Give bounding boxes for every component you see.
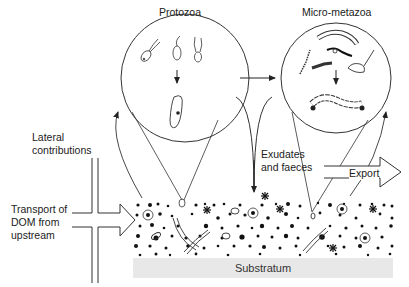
rotifer-small-icon — [348, 50, 374, 73]
micro-metazoa-circle — [281, 23, 391, 133]
zoom-line-protozoa-right — [184, 120, 218, 200]
transport-label-line2: DOM from — [11, 216, 59, 229]
protozoa-circle — [121, 14, 249, 142]
lateral-contributions-label-line1: Lateral — [32, 131, 64, 144]
lateral-channel — [92, 158, 98, 283]
export-label: Export — [349, 167, 379, 180]
star-particles — [203, 192, 377, 252]
zoom-line-protozoa-left — [132, 112, 182, 200]
exudates-label-line2: and faeces — [261, 161, 312, 174]
substratum-bar: Substratum — [133, 258, 393, 278]
micro-metazoa-label: Micro-metazoa — [302, 6, 371, 19]
substratum-label: Substratum — [133, 258, 393, 278]
protozoa-label: Protozoa — [159, 6, 201, 19]
flagellate-icon — [139, 36, 202, 63]
biofilm-to-protozoa-arrow — [116, 112, 142, 198]
exudates-curve-left — [236, 97, 254, 190]
algal-cells — [143, 204, 370, 243]
exudates-curve-right — [254, 97, 272, 190]
rotifer-icon — [318, 32, 357, 44]
biofilm-particles — [134, 202, 394, 256]
filaments — [150, 208, 328, 254]
transport-block-arrow — [72, 204, 135, 236]
tardigrade-icon — [312, 63, 332, 68]
transport-label-line1: Transport of — [11, 203, 67, 216]
worm-icon — [300, 50, 310, 74]
lateral-contributions-label-line2: contributions — [32, 144, 92, 157]
ciliate-icon — [170, 96, 182, 128]
exudates-label-line1: Exudates — [261, 148, 305, 161]
transport-label-line3: upstream — [11, 229, 55, 242]
nematode-icon — [327, 48, 352, 56]
